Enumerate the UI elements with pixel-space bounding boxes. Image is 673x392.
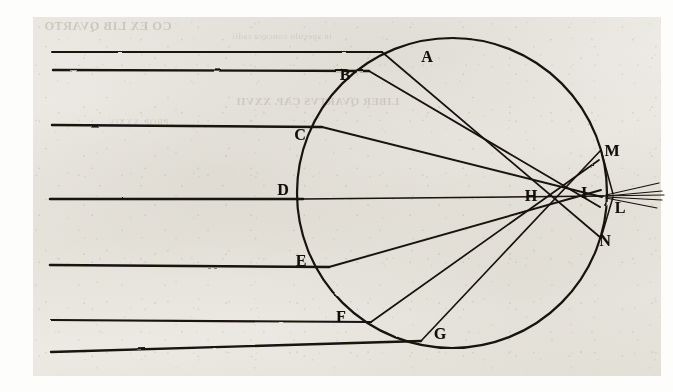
scanned-page: CO EX LIB QVARTO in speculo concavo radi… [0, 0, 673, 392]
paper-sheet [33, 17, 661, 376]
